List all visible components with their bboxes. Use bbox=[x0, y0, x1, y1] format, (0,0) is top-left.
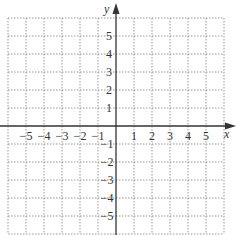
y-tick-label: 2 bbox=[106, 83, 112, 97]
y-tick-label: −3 bbox=[101, 173, 114, 187]
x-tick-label: −5 bbox=[20, 129, 33, 143]
y-axis-arrow-icon bbox=[113, 3, 120, 14]
x-tick-label: −3 bbox=[56, 129, 69, 143]
y-tick-label: 5 bbox=[106, 29, 112, 43]
x-tick-label: 4 bbox=[185, 129, 191, 143]
x-tick-label: −4 bbox=[38, 129, 51, 143]
x-tick-label: −2 bbox=[74, 129, 87, 143]
y-axis bbox=[113, 3, 120, 235]
x-axis-label: x bbox=[223, 127, 230, 141]
x-tick-label: 1 bbox=[131, 129, 137, 143]
y-tick-label: −4 bbox=[101, 191, 114, 205]
x-axis bbox=[0, 123, 236, 130]
y-tick-label: 4 bbox=[106, 47, 112, 61]
coordinate-plane: x y −5−4−3−2−11234554321−1−2−3−4−5 bbox=[0, 0, 237, 235]
x-tick-label: 5 bbox=[203, 129, 209, 143]
x-tick-label: 3 bbox=[167, 129, 173, 143]
y-axis-label: y bbox=[103, 2, 110, 16]
y-tick-label: 1 bbox=[106, 101, 112, 115]
y-tick-label: −1 bbox=[101, 137, 114, 151]
y-tick-label: −5 bbox=[101, 209, 114, 223]
x-tick-label: 2 bbox=[149, 129, 155, 143]
y-tick-label: −2 bbox=[101, 155, 114, 169]
y-tick-label: 3 bbox=[106, 65, 112, 79]
